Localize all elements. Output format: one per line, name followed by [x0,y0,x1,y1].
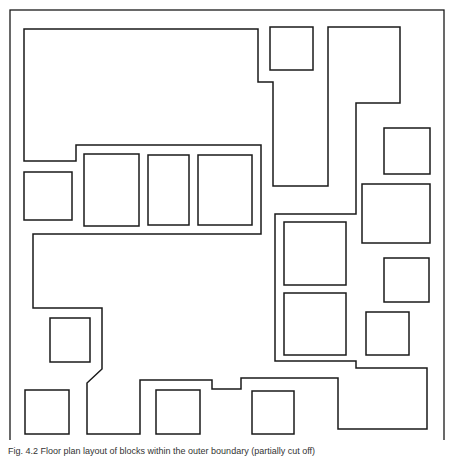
routing-channel-outline [24,27,427,434]
block-row-2 [148,155,189,225]
block-right-2 [362,184,430,243]
block-bottom-3 [252,391,294,434]
block-center-lower [284,293,346,355]
block-left-mid [50,318,90,362]
block-row-1 [84,154,139,226]
block-right-3 [384,258,429,302]
block-center-upper [284,222,346,285]
block-bottom-1 [25,390,69,434]
block-top-small [270,27,313,70]
floorplan-svg [0,0,451,440]
figure-caption: Fig. 4.2 Floor plan layout of blocks wit… [8,446,315,456]
block-row-3 [198,155,252,225]
block-bottom-2 [156,390,200,434]
block-left-small [24,172,72,220]
block-group [24,27,430,434]
block-right-4 [366,312,409,355]
block-right-1 [384,128,430,174]
floorplan-diagram [0,0,451,440]
